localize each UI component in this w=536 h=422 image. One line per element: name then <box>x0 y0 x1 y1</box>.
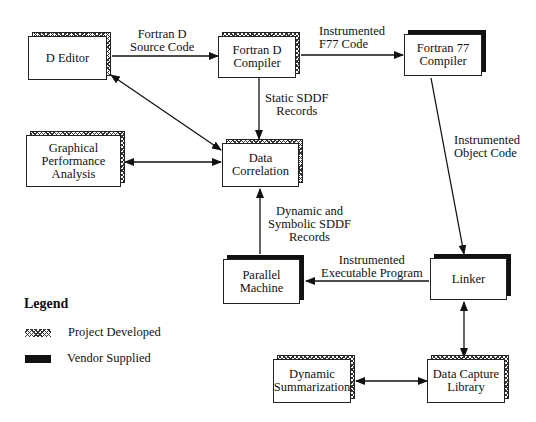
legend-swatch-vendor-supplied <box>25 355 51 363</box>
edge-object-code <box>431 78 464 254</box>
node-fortran77-compiler: Fortran 77 Compiler <box>404 34 482 76</box>
node-parallel-machine: Parallel Machine <box>223 259 300 304</box>
node-label: D Editor <box>28 36 107 80</box>
edge-label-static-sddf: Static SDDF Records <box>265 92 329 118</box>
node-label: Data Correlation <box>222 143 299 187</box>
node-label: Parallel Machine <box>223 259 300 304</box>
edge-label-dynamic-sddf: Dynamic and Symbolic SDDF Records <box>268 205 351 244</box>
node-label: Data Capture Library <box>427 359 505 403</box>
node-fortran-d-compiler: Fortran D Compiler <box>218 36 296 78</box>
node-label: Fortran D Compiler <box>218 36 296 78</box>
edge-label-object-code: Instrumented Object Code <box>454 134 520 160</box>
node-data-correlation: Data Correlation <box>222 143 299 187</box>
node-data-capture-library: Data Capture Library <box>427 359 505 403</box>
edge-editor-correlation <box>111 75 221 150</box>
legend-swatch-project-developed <box>25 329 51 337</box>
node-d-editor: D Editor <box>28 36 107 80</box>
node-dynamic-summarization: Dynamic Summarization <box>273 359 351 403</box>
edge-label-executable: Instrumented Executable Program <box>321 254 423 280</box>
diagram-canvas: D Editor Fortran D Compiler Fortran 77 C… <box>0 0 536 422</box>
legend-label-project-developed: Project Developed <box>68 325 161 340</box>
node-graphical-performance-analysis: Graphical Performance Analysis <box>26 135 121 187</box>
legend-title: Legend <box>24 296 68 312</box>
node-label: Dynamic Summarization <box>273 359 351 403</box>
node-label: Graphical Performance Analysis <box>26 135 121 187</box>
node-linker: Linker <box>430 258 507 300</box>
node-label: Fortran 77 Compiler <box>404 34 482 76</box>
legend-label-vendor-supplied: Vendor Supplied <box>67 351 151 366</box>
edge-label-f77-code: Instrumented F77 Code <box>319 25 385 51</box>
edge-label-source-code: Fortran D Source Code <box>130 28 194 54</box>
node-label: Linker <box>430 258 507 300</box>
